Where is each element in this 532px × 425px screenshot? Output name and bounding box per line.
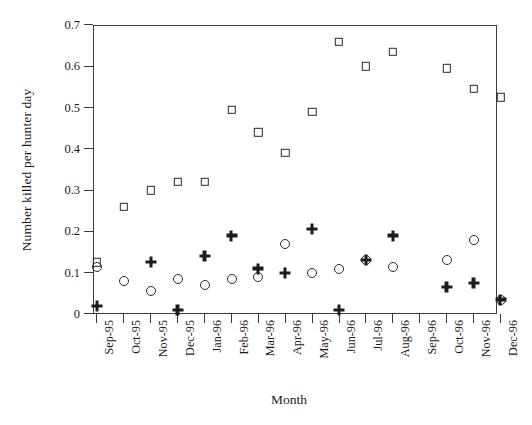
data-point-open-square: [362, 62, 370, 70]
data-point-open-square: [227, 105, 235, 113]
y-tick-label: 0.2: [40, 224, 80, 239]
y-tick-mark: [84, 148, 93, 149]
x-tick-label: Jul-96: [371, 320, 386, 390]
data-point-open-square: [442, 64, 450, 72]
x-tick-mark: [312, 314, 313, 323]
y-tick-label: 0.6: [40, 59, 80, 74]
x-tick-mark: [500, 314, 501, 323]
data-point-plus: [334, 304, 345, 315]
y-tick-mark: [84, 231, 93, 232]
data-point-open-circle: [200, 280, 210, 290]
data-point-open-circle: [119, 276, 129, 286]
data-point-plus: [145, 257, 156, 268]
data-point-open-circle: [307, 268, 317, 278]
x-tick-mark: [96, 314, 97, 323]
y-tick-mark: [84, 24, 93, 25]
x-tick-label: Feb-96: [237, 320, 252, 390]
x-tick-label: Aug-96: [398, 320, 413, 390]
x-tick-mark: [446, 314, 447, 323]
y-tick-label: 0: [40, 307, 80, 322]
data-point-open-square: [389, 48, 397, 56]
y-tick-label: 0.1: [40, 266, 80, 281]
x-tick-mark: [123, 314, 124, 323]
x-tick-label: Jan-96: [210, 320, 225, 390]
x-tick-mark: [473, 314, 474, 323]
data-point-open-circle: [227, 274, 237, 284]
x-tick-label: Sep-95: [102, 320, 117, 390]
x-tick-label: Dec-96: [506, 320, 521, 390]
data-point-open-circle: [442, 255, 452, 265]
x-axis-title-text: Month: [225, 392, 307, 407]
data-point-open-square: [147, 186, 155, 194]
data-point-plus: [253, 263, 264, 274]
plot-area: [93, 25, 497, 314]
data-point-open-square: [469, 85, 477, 93]
data-point-open-square: [496, 93, 504, 101]
data-point-plus: [468, 278, 479, 289]
data-point-open-square: [254, 128, 262, 136]
data-point-open-square: [173, 178, 181, 186]
x-tick-label: Nov-95: [156, 320, 171, 390]
y-tick-mark: [84, 190, 93, 191]
data-point-plus: [199, 251, 210, 262]
chart-figure: Number killed per hunter day 00.10.20.30…: [0, 0, 532, 425]
data-point-plus: [361, 255, 372, 266]
data-point-open-square: [308, 107, 316, 115]
data-point-plus: [226, 230, 237, 241]
y-tick-label: 0.3: [40, 183, 80, 198]
y-tick-label: 0.5: [40, 101, 80, 116]
data-point-open-circle: [173, 274, 183, 284]
y-axis-title: Number killed per hunter day: [19, 50, 35, 290]
x-tick-label: Jun-96: [344, 320, 359, 390]
data-point-open-square: [281, 149, 289, 157]
x-tick-mark: [204, 314, 205, 323]
x-tick-label: Nov-96: [479, 320, 494, 390]
x-tick-label: Mar-96: [263, 320, 278, 390]
data-point-open-circle: [334, 264, 344, 274]
x-axis-title: Month: [0, 392, 532, 408]
x-tick-label: Oct-95: [129, 320, 144, 390]
x-tick-mark: [150, 314, 151, 323]
y-tick-mark: [84, 66, 93, 67]
x-tick-label: Apr-96: [290, 320, 305, 390]
x-tick-label: Oct-96: [452, 320, 467, 390]
data-point-open-square: [120, 202, 128, 210]
data-point-plus: [172, 304, 183, 315]
x-tick-label: Dec-95: [183, 320, 198, 390]
data-point-plus: [387, 230, 398, 241]
x-tick-mark: [285, 314, 286, 323]
data-point-plus: [280, 267, 291, 278]
data-point-open-circle: [146, 286, 156, 296]
y-tick-label: 0.4: [40, 142, 80, 157]
x-tick-mark: [419, 314, 420, 323]
y-tick-mark: [84, 272, 93, 273]
data-point-plus: [441, 282, 452, 293]
data-point-plus: [307, 224, 318, 235]
x-tick-mark: [392, 314, 393, 323]
y-tick-mark: [84, 313, 93, 314]
data-point-open-circle: [388, 262, 398, 272]
data-point-open-circle: [92, 262, 102, 272]
data-point-open-square: [335, 37, 343, 45]
x-tick-mark: [258, 314, 259, 323]
y-tick-label: 0.7: [40, 18, 80, 33]
data-point-plus: [495, 294, 506, 305]
x-tick-mark: [231, 314, 232, 323]
y-tick-mark: [84, 107, 93, 108]
x-tick-label: Sep-96: [425, 320, 440, 390]
x-tick-label: May-96: [317, 320, 332, 390]
data-point-open-circle: [469, 235, 479, 245]
x-tick-mark: [365, 314, 366, 323]
data-point-open-square: [200, 178, 208, 186]
data-point-plus: [92, 300, 103, 311]
data-point-open-circle: [280, 239, 290, 249]
